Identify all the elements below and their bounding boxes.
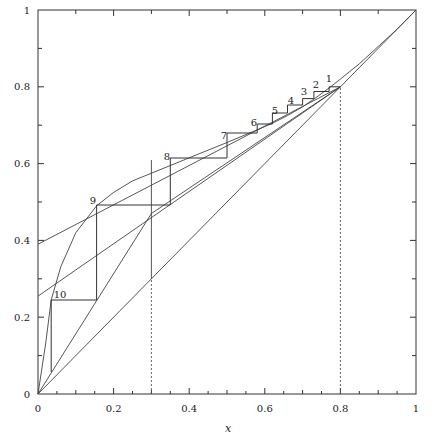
mccabe-thiele-diagram: 0 0.2 0.4 0.6 0.8 1 0 0.2 0.4 0.6 0.8 1 …: [0, 0, 435, 438]
y-tick-0.4: 0.4: [14, 235, 30, 246]
stage-label-10: 10: [54, 289, 67, 300]
x-tick-labels: 0 0.2 0.4 0.6 0.8 1: [35, 403, 419, 414]
stage-staircase: [51, 87, 340, 372]
y-tick-0: 0: [24, 389, 30, 400]
stage-labels: 1 2 3 4 5 6 7 8 9 10: [54, 73, 333, 300]
operating-line-upper: [151, 87, 340, 214]
stage-label-6: 6: [251, 117, 257, 128]
operating-line-a: [38, 87, 340, 296]
operating-line-b: [38, 87, 340, 244]
x-tick-0: 0: [35, 403, 41, 414]
stage-label-4: 4: [288, 95, 294, 106]
y-tick-0.6: 0.6: [14, 158, 30, 169]
x-axis-label: x: [225, 422, 232, 435]
y-tick-0.8: 0.8: [14, 81, 30, 92]
x-tick-0.8: 0.8: [332, 403, 348, 414]
y-tick-0.2: 0.2: [14, 312, 30, 323]
y-tick-1: 1: [24, 5, 30, 16]
stage-label-7: 7: [221, 130, 227, 141]
stage-label-5: 5: [272, 105, 278, 116]
y-tick-labels: 0 0.2 0.4 0.6 0.8 1: [14, 5, 30, 400]
stage-label-8: 8: [164, 151, 170, 162]
x-tick-0.2: 0.2: [106, 403, 122, 414]
stage-label-2: 2: [313, 79, 319, 90]
stage-label-9: 9: [90, 195, 96, 206]
x-tick-0.6: 0.6: [257, 403, 273, 414]
x-tick-1: 1: [413, 403, 419, 414]
x-tick-0.4: 0.4: [181, 403, 197, 414]
stage-label-1: 1: [326, 73, 332, 84]
stage-label-3: 3: [301, 86, 307, 97]
stripping-line: [38, 214, 151, 395]
